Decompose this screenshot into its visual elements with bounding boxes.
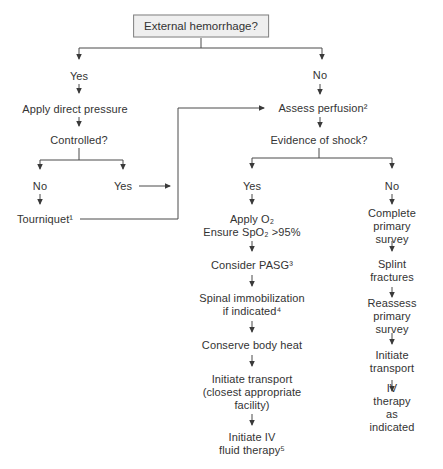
connector-tourniquet-riser-to-assess	[80, 108, 264, 219]
decision-evidence-of-shock: Evidence of shock?	[270, 134, 367, 147]
decision-box-external-hemorrhage: External hemorrhage?	[133, 15, 269, 38]
connector-controlled-split	[40, 148, 123, 169]
step-apply-o2: Apply O₂ Ensure SpO₂ >95%	[203, 213, 300, 239]
connector-hemorrhage-split	[79, 38, 322, 59]
label-yes-hemorrhage: Yes	[70, 70, 88, 83]
connector-shock-split	[252, 148, 392, 168]
decision-controlled: Controlled?	[50, 134, 107, 147]
step-tourniquet: Tourniquet¹	[17, 213, 73, 226]
step-spinal-immobilization: Spinal immobilization if indicated⁴	[199, 292, 304, 318]
label-yes-controlled: Yes	[114, 180, 132, 193]
label-no-controlled: No	[33, 180, 47, 193]
label-no-shock: No	[385, 180, 399, 193]
step-apply-direct-pressure: Apply direct pressure	[22, 103, 127, 116]
step-consider-pasg: Consider PASG³	[211, 259, 293, 272]
step-reassess-primary-survey: Reassess primary survey	[367, 297, 418, 336]
step-initiate-iv-fluid-therapy: Initiate IV fluid therapy⁵	[219, 431, 285, 457]
label-yes-shock: Yes	[243, 180, 261, 193]
step-complete-primary-survey: Complete primary survey	[367, 207, 418, 246]
step-initiate-transport-facility: Initiate transport (closest appropriate …	[203, 373, 302, 412]
step-splint-fractures: Splint fractures	[370, 258, 414, 284]
label-no-hemorrhage: No	[313, 69, 327, 82]
step-conserve-body-heat: Conserve body heat	[202, 339, 302, 352]
step-initiate-transport: Initiate transport	[370, 349, 414, 375]
flowchart-external-hemorrhage: External hemorrhage? Yes Apply direct pr…	[0, 0, 443, 469]
step-iv-therapy-as-indicated: IV therapy as indicated	[367, 382, 418, 434]
step-assess-perfusion: Assess perfusion²	[278, 102, 367, 115]
